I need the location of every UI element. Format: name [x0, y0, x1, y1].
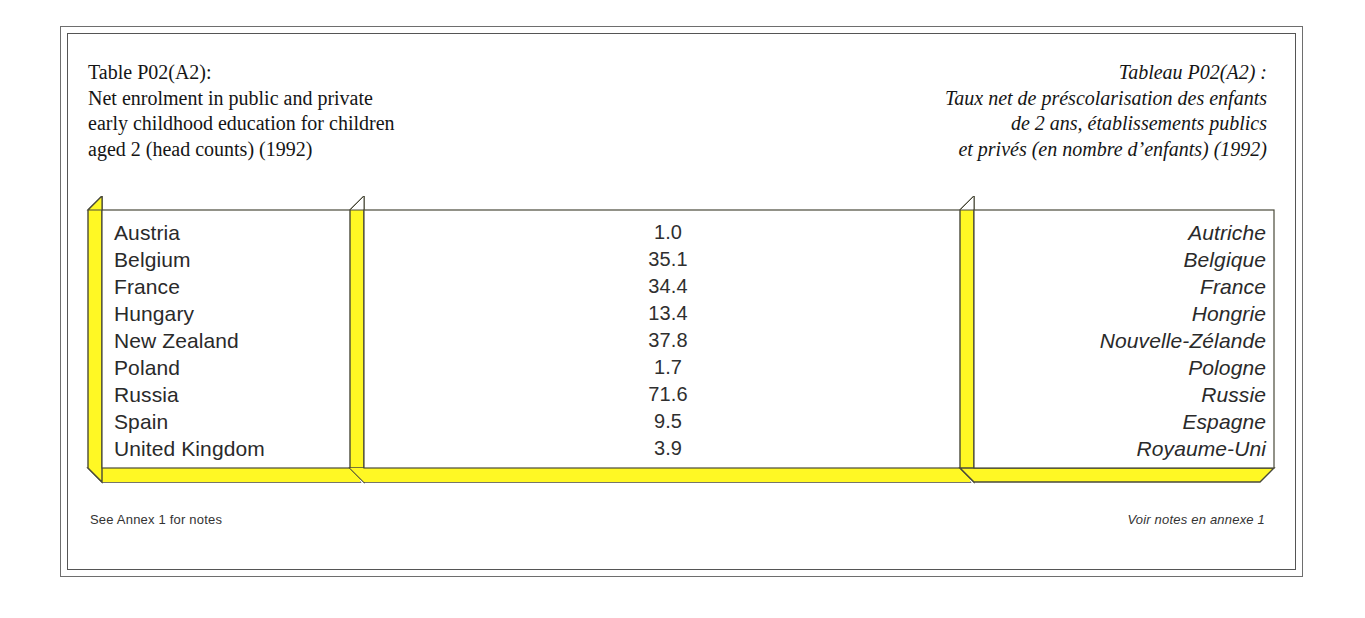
panel3-bottom-face — [960, 468, 1274, 482]
panel1-front-face — [102, 210, 360, 468]
page-title-english: Table P02(A2): Net enrolment in public a… — [88, 60, 395, 162]
title-block: Table P02(A2): Net enrolment in public a… — [68, 34, 1295, 184]
panel2-front-face — [364, 210, 970, 468]
panel3-front-face — [974, 210, 1274, 468]
divider2-notch — [960, 196, 974, 210]
note-french: Voir notes en annexe 1 — [1127, 512, 1265, 527]
note-english: See Annex 1 for notes — [90, 512, 222, 527]
panel1-left-face — [88, 196, 102, 482]
table-page: Table P02(A2): Net enrolment in public a… — [0, 0, 1365, 618]
panel-shapes-svg — [78, 196, 1288, 506]
page-title-french: Tableau P02(A2) : Taux net de préscolari… — [945, 60, 1267, 162]
divider2-left-face — [960, 196, 974, 482]
table-3d-panels: Austria Belgium France Hungary New Zeala… — [78, 196, 1288, 506]
panel1-base-extension — [88, 468, 360, 482]
divider1-left-face — [350, 196, 364, 482]
divider1-notch — [350, 196, 364, 210]
panel1-top-bevel — [88, 196, 102, 210]
panel2-base-extension — [350, 468, 970, 482]
footer-notes: See Annex 1 for notes Voir notes en anne… — [68, 512, 1295, 527]
